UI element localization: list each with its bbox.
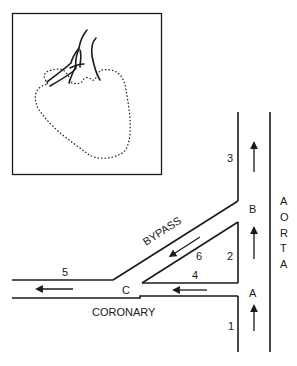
aorta-letter: R bbox=[280, 227, 288, 239]
aorta-letter: A bbox=[280, 195, 288, 207]
label-point-B: B bbox=[249, 203, 256, 215]
label-point-A: A bbox=[249, 287, 257, 299]
bypass-flow-diagram: 3 B 2 6 4 A 1 5 C BYPASS CORONARY A O R … bbox=[0, 0, 297, 366]
label-segment-4: 4 bbox=[192, 269, 198, 281]
label-segment-3: 3 bbox=[227, 152, 233, 164]
bypass-upper-wall bbox=[113, 201, 238, 280]
heart-outline-icon bbox=[35, 69, 130, 158]
label-segment-1: 1 bbox=[228, 320, 234, 332]
aorta-letter: T bbox=[280, 242, 287, 254]
label-segment-5: 5 bbox=[62, 266, 68, 278]
label-segment-6: 6 bbox=[196, 250, 202, 262]
label-coronary: CORONARY bbox=[92, 306, 156, 318]
vessel-strokes bbox=[47, 30, 100, 86]
label-point-C: C bbox=[122, 284, 130, 296]
coronary-lower-wall bbox=[12, 296, 238, 298]
label-aorta: A O R T A bbox=[280, 195, 289, 270]
label-segment-2: 2 bbox=[227, 250, 233, 262]
heart-inset bbox=[13, 14, 162, 175]
inset-frame bbox=[13, 14, 162, 175]
aorta-letter: O bbox=[280, 211, 289, 223]
aorta-letter: A bbox=[280, 258, 288, 270]
label-bypass: BYPASS bbox=[141, 214, 184, 248]
